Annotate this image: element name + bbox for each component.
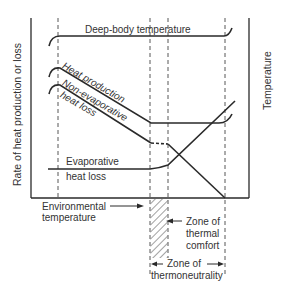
thermoneutrality-label-1: Zone of <box>167 258 201 269</box>
arrowhead-left-icon <box>151 262 157 267</box>
arrowhead-right-icon <box>218 262 224 267</box>
deep-body-temperature-label: Deep-body temperature <box>85 24 191 35</box>
thermal-comfort-label-2: thermal <box>186 228 219 239</box>
environmental-label: Environmental temperature <box>42 201 112 223</box>
thermoneutrality-label-2: thermoneutrality <box>151 270 223 281</box>
non-evaporative-decline <box>168 144 225 198</box>
right-axis-label: Temperature <box>262 51 273 110</box>
x-axis-label-line1: Environmental temperature <box>42 201 112 223</box>
evaporative-label-2: heat loss <box>66 171 106 182</box>
thermal-comfort-label-3: comfort <box>186 240 219 251</box>
thermal-comfort-label-1: Zone of <box>186 216 220 227</box>
thermoregulation-diagram <box>0 0 281 286</box>
non-evaporative-dashed-segment <box>151 143 168 144</box>
evaporative-label-1: Evaporative <box>66 156 119 167</box>
arrowhead-right-icon <box>137 204 144 209</box>
thermal-comfort-hatch <box>151 199 168 258</box>
y-axis-label: Rate of heat production or loss <box>12 43 23 186</box>
